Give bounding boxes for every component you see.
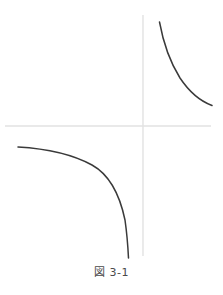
plot-area bbox=[0, 0, 223, 262]
hyperbola-plot bbox=[0, 0, 223, 262]
figure-caption: 図 3-1 bbox=[0, 266, 223, 280]
hyperbola-branch-upper-right bbox=[160, 22, 213, 106]
figure-container: 図 3-1 bbox=[0, 0, 223, 295]
hyperbola-branch-lower-left bbox=[18, 147, 129, 258]
